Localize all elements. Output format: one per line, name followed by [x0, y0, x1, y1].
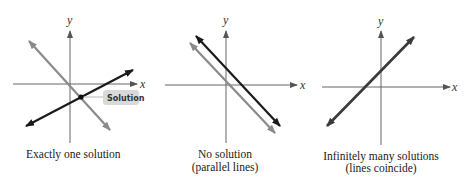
- x-axis-label: x: [451, 80, 458, 94]
- gray-line: [29, 41, 110, 130]
- black-line: [196, 36, 280, 126]
- solution-point: [78, 94, 83, 99]
- panel-one-solution: y x Solution Exactly one solution: [13, 13, 146, 161]
- solution-label: Solution: [107, 94, 145, 103]
- caption-line-2: (parallel lines): [192, 161, 259, 174]
- coincident-lines: [327, 37, 414, 126]
- panel-infinite-solutions: y x Infinitely many solutions (lines coi…: [322, 14, 458, 175]
- caption-line-2: (lines coincide): [345, 162, 416, 175]
- y-axis-label: y: [377, 14, 384, 28]
- systems-of-equations-diagram: y x Solution Exactly one solution y x No…: [0, 0, 468, 181]
- y-axis-label: y: [222, 13, 229, 27]
- x-axis-label: x: [299, 78, 306, 92]
- caption-line-1: Exactly one solution: [26, 148, 121, 161]
- x-axis-label: x: [139, 77, 146, 91]
- y-axis-label: y: [66, 13, 73, 27]
- gray-line: [190, 43, 275, 133]
- caption-line-1: No solution: [198, 148, 252, 160]
- panel-no-solution: y x No solution (parallel lines): [165, 13, 306, 174]
